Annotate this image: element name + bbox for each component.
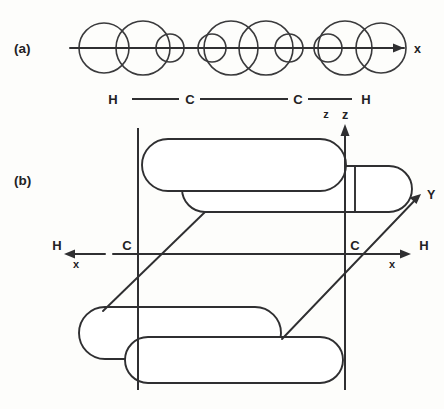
panel-b-atom-c-right: C — [350, 238, 360, 253]
panel-b-group — [64, 124, 421, 390]
panel-b-z-axis-label: z — [342, 108, 348, 122]
panel-a-tag: (a) — [14, 41, 31, 56]
panel-b-right-x-label: x — [389, 258, 396, 270]
right-x-axis-arrowhead — [400, 250, 411, 259]
panel-b-tag: (b) — [14, 173, 31, 188]
figure-root: (a) x H C C H z (b) z Y H C C H x x — [0, 0, 444, 409]
panel-a-bond-z-label: z — [323, 108, 329, 120]
pi-lobe-upper-front — [142, 139, 346, 191]
panel-a-atom-c-left: C — [185, 92, 195, 107]
panel-b-left-x-label: x — [73, 258, 80, 270]
panel-a-atom-c-right: C — [293, 92, 303, 107]
orbital-diagram-svg: (a) x H C C H z (b) z Y H C C H x x — [0, 0, 444, 409]
panel-b-y-axis-label: Y — [427, 188, 436, 202]
y-axis-diagonal-left — [103, 212, 205, 311]
y-axis-diagonal-right — [282, 197, 418, 339]
panel-b-atom-h-left: H — [52, 238, 61, 253]
panel-a-atom-h-right: H — [361, 92, 370, 107]
panel-a-atom-h-left: H — [108, 92, 117, 107]
pi-lobe-upper-back-cap — [355, 166, 412, 212]
panel-a-x-axis-label: x — [414, 42, 421, 56]
panel-a-x-axis-arrowhead — [393, 44, 404, 53]
panel-b-atom-c-left: C — [122, 238, 132, 253]
pi-lobe-lower-back — [125, 337, 343, 383]
panel-a-group — [70, 21, 406, 99]
panel-b-atom-h-right: H — [419, 238, 428, 253]
z-axis-arrowhead — [341, 124, 350, 136]
